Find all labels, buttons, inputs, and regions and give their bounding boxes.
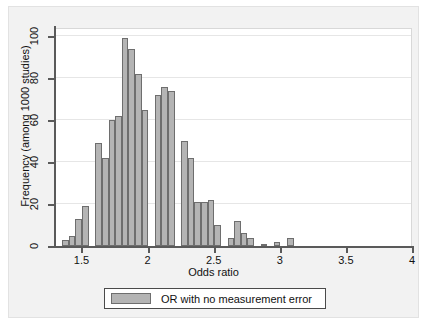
x-tick-label: 3.5 (338, 254, 353, 266)
y-tick (48, 36, 55, 38)
x-tick (81, 246, 83, 253)
histogram-bar (214, 225, 221, 246)
histogram-bar (135, 74, 142, 246)
y-tick (48, 162, 55, 164)
x-tick-label: 4 (409, 254, 415, 266)
y-tick (48, 78, 55, 80)
histogram-bar (122, 38, 129, 246)
histogram-bar (128, 49, 135, 246)
histogram-bar (234, 221, 241, 246)
x-tick-label: 2.5 (206, 254, 221, 266)
histogram-bars (55, 29, 411, 246)
x-tick (214, 246, 216, 253)
histogram-bar (82, 206, 89, 246)
x-tick (148, 246, 150, 253)
x-axis-title: Odds ratio (0, 266, 427, 278)
legend-swatch-or-no-error (111, 293, 151, 304)
histogram-bar (194, 202, 201, 246)
histogram-bar (95, 143, 102, 246)
y-tick-label: 0 (22, 239, 46, 253)
histogram-bar (109, 120, 116, 246)
histogram-bar (115, 116, 122, 246)
histogram-bar (247, 238, 254, 246)
legend-label-or-no-error: OR with no measurement error (161, 293, 312, 305)
y-tick (48, 246, 55, 248)
histogram-bar (201, 202, 208, 246)
histogram-bar (188, 158, 195, 246)
histogram-bar (102, 158, 109, 246)
histogram-bar (161, 87, 168, 246)
y-axis-title: Frequency (among 1000 studies) (19, 26, 31, 226)
histogram-bar (208, 200, 215, 246)
x-tick (412, 246, 414, 253)
histogram-bar (168, 91, 175, 246)
histogram-bar (241, 233, 248, 246)
y-tick (48, 120, 55, 122)
x-tick-label: 3 (277, 254, 283, 266)
x-tick (346, 246, 348, 253)
plot-area (55, 28, 412, 246)
chart-legend: OR with no measurement error (104, 288, 326, 309)
histogram-bar (287, 238, 294, 246)
x-axis-line (54, 246, 412, 248)
x-tick-label: 1.5 (74, 254, 89, 266)
y-tick (48, 204, 55, 206)
histogram-bar (228, 238, 235, 246)
histogram-bar (69, 236, 76, 246)
histogram-bar (75, 219, 82, 246)
x-tick (280, 246, 282, 253)
histogram-bar (181, 141, 188, 246)
histogram-bar (155, 95, 162, 246)
histogram-bar (142, 110, 149, 246)
y-axis-line (54, 26, 56, 248)
histogram-figure: 020406080100 1.522.533.54 Odds ratio Fre… (0, 0, 427, 327)
x-tick-label: 2 (144, 254, 150, 266)
